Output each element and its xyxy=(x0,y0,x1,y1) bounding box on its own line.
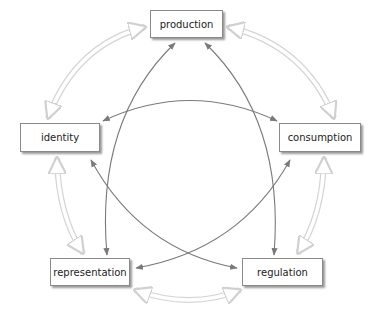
node-label: identity xyxy=(41,132,79,143)
outer-arrow-representation-regulation xyxy=(135,290,240,300)
node-production: production xyxy=(150,10,223,38)
inner-arrow-identity-consumption xyxy=(103,101,277,122)
inner-arrow-consumption-representation xyxy=(136,160,290,268)
inner-arrow-identity-regulation xyxy=(91,160,237,268)
outer-arrow-consumption-regulation xyxy=(298,158,324,253)
node-identity: identity xyxy=(20,123,100,152)
node-label: consumption xyxy=(288,132,353,143)
node-consumption: consumption xyxy=(279,123,361,152)
inner-arrows xyxy=(91,43,290,268)
node-label: representation xyxy=(53,267,126,278)
node-label: regulation xyxy=(257,267,308,278)
node-regulation: regulation xyxy=(242,258,323,286)
outer-arrow-production-consumption xyxy=(228,27,334,118)
outer-arrow-identity-representation xyxy=(57,158,83,253)
inner-arrow-production-regulation xyxy=(205,43,275,255)
node-representation: representation xyxy=(50,258,130,286)
node-label: production xyxy=(160,19,214,30)
